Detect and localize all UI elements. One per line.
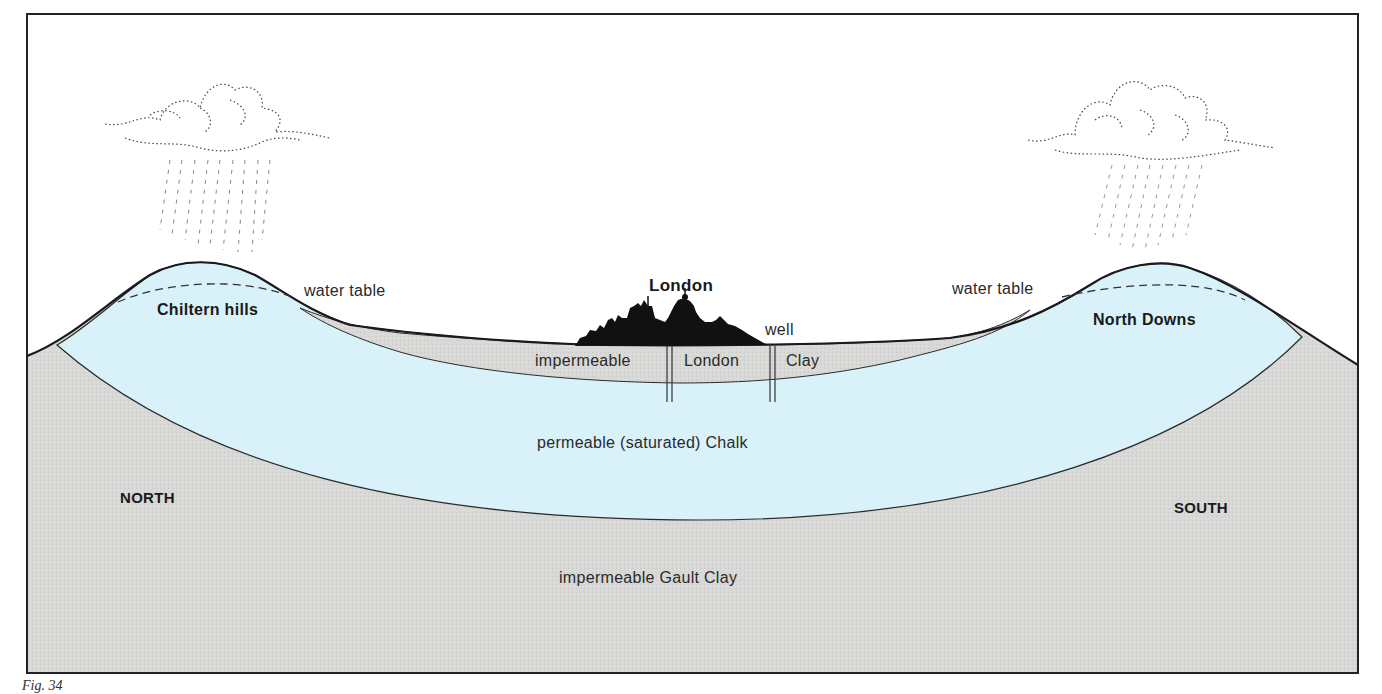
south-label: SOUTH (1174, 499, 1228, 516)
city-label: London (649, 276, 713, 296)
figure-caption: Fig. 34 (22, 678, 62, 694)
north-downs-label: North Downs (1093, 311, 1196, 329)
london-clay-label-3: Clay (786, 352, 819, 370)
well-label: well (765, 321, 794, 339)
water-table-label-left: water table (304, 282, 386, 300)
chalk-label: permeable (saturated) Chalk (537, 434, 748, 452)
london-clay-label-1: impermeable (535, 352, 631, 370)
gault-clay-label: impermeable Gault Clay (559, 569, 737, 587)
north-label: NORTH (120, 489, 175, 506)
water-table-label-right: water table (952, 280, 1034, 298)
chiltern-hills-label: Chiltern hills (157, 301, 258, 319)
london-clay-label-2: London (684, 352, 739, 370)
